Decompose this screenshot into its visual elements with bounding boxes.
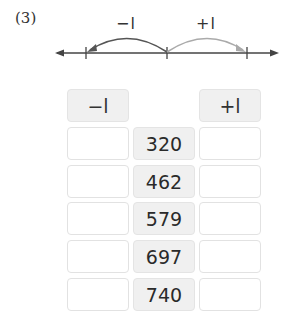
minus-one-arc <box>90 38 167 52</box>
answer-minus-cell[interactable] <box>67 127 129 160</box>
given-value-cell: 740 <box>133 278 195 311</box>
answer-plus-cell[interactable] <box>199 278 261 311</box>
plus-one-label: +l <box>196 14 216 33</box>
given-value-cell: 462 <box>133 165 195 198</box>
answer-plus-cell[interactable] <box>199 127 261 160</box>
header-plus-one: +l <box>199 89 261 122</box>
answer-minus-cell[interactable] <box>67 165 129 198</box>
left-arrow-icon <box>55 50 64 57</box>
answer-plus-cell[interactable] <box>199 240 261 273</box>
minus-one-label: −l <box>116 14 136 33</box>
plus-arc-arrowhead-icon <box>236 44 246 52</box>
given-value-cell: 320 <box>133 127 195 160</box>
answer-minus-cell[interactable] <box>67 202 129 235</box>
given-value-cell: 697 <box>133 240 195 273</box>
header-minus-one: −l <box>67 89 129 122</box>
number-line <box>0 0 288 70</box>
answer-minus-cell[interactable] <box>67 240 129 273</box>
given-value-cell: 579 <box>133 202 195 235</box>
plus-one-arc <box>167 38 243 52</box>
right-arrow-icon <box>270 50 279 57</box>
minus-arc-arrowhead-icon <box>87 44 97 52</box>
answer-plus-cell[interactable] <box>199 202 261 235</box>
answer-plus-cell[interactable] <box>199 165 261 198</box>
answer-minus-cell[interactable] <box>67 278 129 311</box>
